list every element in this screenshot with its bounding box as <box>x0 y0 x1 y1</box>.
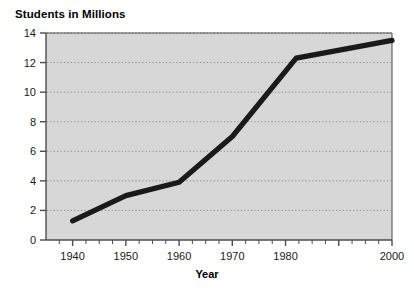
y-axis-tick-labels: 02468101214 <box>24 27 36 246</box>
svg-text:6: 6 <box>30 145 36 157</box>
svg-text:12: 12 <box>24 57 36 69</box>
x-axis-ticks-group <box>73 240 392 246</box>
x-axis-tick-labels: 194019501960197019802000 <box>60 250 404 262</box>
x-axis-title: Year <box>0 268 414 280</box>
svg-text:1960: 1960 <box>167 250 191 262</box>
y-axis-ticks-group <box>40 33 46 240</box>
svg-text:0: 0 <box>30 234 36 246</box>
svg-text:2: 2 <box>30 204 36 216</box>
svg-text:4: 4 <box>30 175 36 187</box>
chart-container: Students in Millions 02468101214 1940195… <box>0 0 414 300</box>
svg-text:1970: 1970 <box>220 250 244 262</box>
svg-text:1980: 1980 <box>273 250 297 262</box>
svg-text:8: 8 <box>30 116 36 128</box>
svg-text:1940: 1940 <box>60 250 84 262</box>
svg-text:14: 14 <box>24 27 36 39</box>
svg-text:2000: 2000 <box>380 250 404 262</box>
chart-svg: 02468101214 194019501960197019802000 <box>0 0 414 300</box>
svg-text:10: 10 <box>24 86 36 98</box>
svg-text:1950: 1950 <box>114 250 138 262</box>
